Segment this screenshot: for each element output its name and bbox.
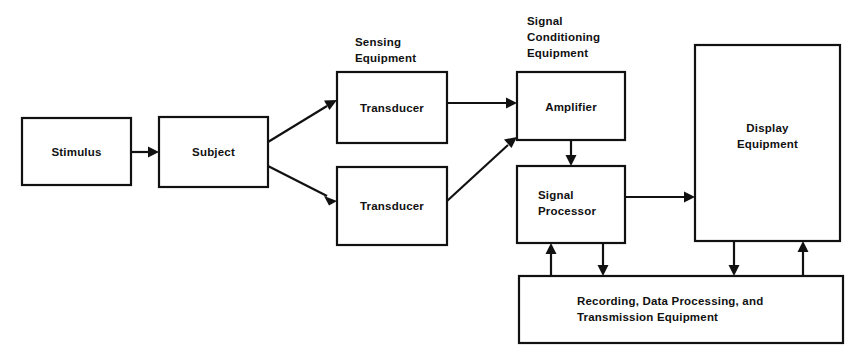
group-label-sensing-equipment: Sensing Equipment: [355, 36, 416, 64]
connector-transducer-lower-to-amplifier: [447, 137, 517, 201]
box-stimulus[interactable]: Stimulus: [22, 118, 131, 185]
connector-signal-processor-to-display: [625, 192, 695, 203]
block-diagram-canvas: Stimulus Subject Transducer Transducer A…: [0, 0, 868, 362]
block-diagram: Stimulus Subject Transducer Transducer A…: [0, 0, 868, 362]
box-recording-data-processing[interactable]: Recording, Data Processing, and Transmis…: [519, 276, 843, 343]
box-amplifier[interactable]: Amplifier: [517, 72, 625, 140]
box-transducer-lower[interactable]: Transducer: [337, 167, 447, 245]
group-label-conditioning-line2: Conditioning: [527, 31, 600, 43]
box-subject-label: Subject: [192, 146, 235, 158]
connector-recording-to-display: [798, 241, 809, 276]
box-display-equipment-label-line2: Equipment: [737, 138, 798, 150]
box-display-equipment[interactable]: Display Equipment: [695, 45, 840, 241]
connector-transducer-upper-to-amplifier: [447, 98, 517, 109]
box-transducer-lower-label: Transducer: [360, 200, 424, 212]
connector-subject-to-transducer-lower: [268, 166, 337, 206]
box-signal-processor-label-line2: Processor: [538, 205, 596, 217]
connector-stimulus-to-subject: [131, 147, 159, 158]
connector-subject-to-transducer-upper: [268, 100, 337, 142]
connector-display-to-recording: [729, 241, 740, 276]
box-amplifier-label: Amplifier: [545, 101, 597, 113]
box-transducer-upper[interactable]: Transducer: [337, 72, 447, 143]
box-signal-processor[interactable]: Signal Processor: [517, 166, 625, 243]
box-recording-label-line1: Recording, Data Processing, and: [577, 295, 763, 307]
group-label-conditioning-line3: Equipment: [527, 47, 588, 59]
connector-signal-processor-to-recording: [598, 243, 609, 276]
group-label-signal-conditioning-equipment: Signal Conditioning Equipment: [527, 15, 600, 59]
box-display-equipment-label-line1: Display: [746, 122, 789, 134]
box-transducer-upper-label: Transducer: [360, 102, 424, 114]
group-label-sensing-line2: Equipment: [355, 52, 416, 64]
group-label-sensing-line1: Sensing: [355, 36, 401, 48]
group-label-conditioning-line1: Signal: [527, 15, 563, 27]
box-stimulus-label: Stimulus: [51, 146, 101, 158]
box-subject[interactable]: Subject: [159, 117, 268, 187]
connector-recording-to-signal-processor: [546, 243, 557, 276]
box-signal-processor-label-line1: Signal: [538, 189, 574, 201]
box-recording-label-line2: Transmission Equipment: [577, 311, 718, 323]
connector-amplifier-to-signal-processor: [566, 140, 577, 166]
